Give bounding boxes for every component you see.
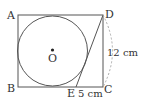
label-o: O	[48, 52, 57, 65]
label-d: D	[105, 8, 114, 21]
label-a: A	[6, 9, 16, 22]
dimension-dc: 12 cm	[107, 47, 139, 58]
dimension-ec: 5 cm	[78, 88, 103, 99]
segment-de	[76, 15, 103, 87]
geometry-figure: A B C D E O 12 cm 5 cm	[0, 0, 143, 104]
label-b: B	[7, 82, 15, 95]
label-c: C	[104, 83, 112, 96]
label-e: E	[67, 87, 75, 100]
rectangle-abcd	[18, 15, 103, 87]
